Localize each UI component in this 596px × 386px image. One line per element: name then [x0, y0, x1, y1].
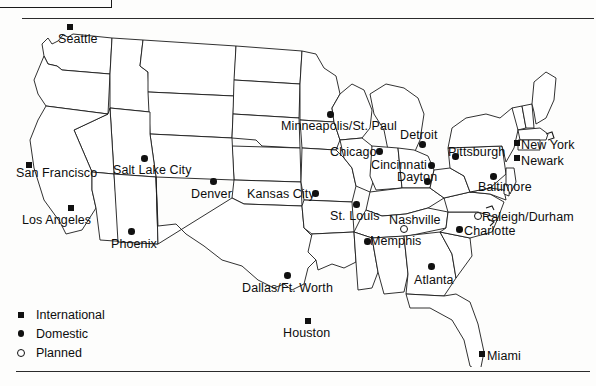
planned-marker-icon: [17, 349, 25, 357]
city-label: New York: [521, 139, 575, 152]
legend-item-international: International: [14, 305, 105, 324]
domestic-marker-icon: [284, 272, 291, 279]
bottom-horizontal-rule: [16, 371, 590, 372]
city-label: Memphis: [370, 235, 421, 248]
city-label: Pittsburgh: [448, 146, 505, 159]
city-label: San Francisco: [16, 167, 97, 180]
city-label: Minneapolis/St. Paul: [281, 120, 397, 133]
legend-label: Planned: [36, 346, 82, 360]
international-marker-icon: [514, 155, 520, 161]
domestic-marker-icon: [128, 228, 135, 235]
legend-item-domestic: Domestic: [14, 324, 105, 343]
domestic-marker-icon: [490, 173, 497, 180]
city-label: Nashville: [389, 214, 441, 227]
map-page: SeattleSan FranciscoLos AngelesPhoenixSa…: [0, 0, 596, 386]
domestic-marker-icon: [376, 148, 383, 155]
city-label: St. Louis: [330, 210, 380, 223]
legend-label: International: [36, 308, 105, 322]
international-marker-icon: [67, 24, 73, 30]
city-label: Dayton: [397, 171, 437, 184]
domestic-marker-icon: [327, 111, 334, 118]
city-label: Chicago: [330, 146, 377, 159]
domestic-marker-icon: [353, 201, 360, 208]
city-label: Salt Lake City: [113, 164, 192, 177]
legend-label: Domestic: [36, 327, 88, 341]
city-label: Los Angeles: [22, 214, 91, 227]
legend-marker: [14, 349, 28, 357]
city-label: Seattle: [58, 33, 98, 46]
page-corner-box: [0, 0, 112, 8]
city-label: Charlotte: [464, 225, 516, 238]
international-marker-icon: [305, 318, 311, 324]
top-horizontal-rule: [22, 18, 594, 19]
domestic-marker-icon: [141, 155, 148, 162]
domestic-marker-icon: [428, 263, 435, 270]
city-label: Raleigh/Durham: [482, 211, 574, 224]
city-label: Newark: [521, 155, 564, 168]
city-label: Atlanta: [414, 274, 454, 287]
domestic-marker-icon: [210, 178, 217, 185]
city-label: Denver: [191, 188, 232, 201]
city-label: Phoenix: [111, 238, 157, 251]
city-label: Dallas/Ft. Worth: [242, 282, 333, 295]
planned-marker-icon: [474, 212, 482, 220]
city-label: Kansas City: [247, 188, 315, 201]
international-marker-icon: [18, 312, 24, 318]
legend-marker: [14, 330, 28, 337]
domestic-marker-icon: [18, 330, 25, 337]
domestic-marker-icon: [456, 226, 463, 233]
international-marker-icon: [514, 140, 520, 146]
city-label: Miami: [487, 350, 521, 363]
international-marker-icon: [479, 351, 485, 357]
city-label: Houston: [283, 327, 330, 340]
map-legend: InternationalDomesticPlanned: [14, 305, 105, 362]
legend-marker: [14, 312, 28, 318]
city-label: Baltimore: [478, 181, 532, 194]
domestic-marker-icon: [428, 162, 435, 169]
international-marker-icon: [68, 205, 74, 211]
legend-item-planned: Planned: [14, 343, 105, 362]
city-label: Detroit: [400, 129, 438, 142]
